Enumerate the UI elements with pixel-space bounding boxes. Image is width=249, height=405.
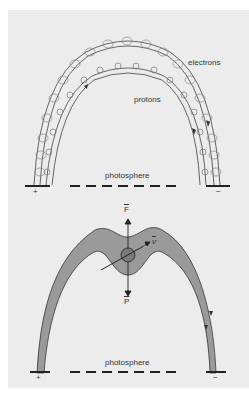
velocity-label: v xyxy=(152,237,156,246)
proton-gyrations xyxy=(44,63,208,175)
minus-label-top: − xyxy=(216,187,221,196)
electrons-label: electrons xyxy=(188,58,220,67)
pressure-label: P xyxy=(124,297,129,306)
minus-label-bottom: − xyxy=(213,373,218,382)
photosphere-label-top: photosphere xyxy=(105,171,149,180)
protons-label: protons xyxy=(134,95,161,104)
plus-label-bottom: + xyxy=(36,373,41,382)
photosphere-label-bottom: photosphere xyxy=(105,358,149,367)
force-label: F xyxy=(124,205,129,214)
plus-label-top: + xyxy=(33,187,38,196)
proton-arc-outer xyxy=(46,68,206,185)
proton-arc-inner xyxy=(52,73,200,185)
